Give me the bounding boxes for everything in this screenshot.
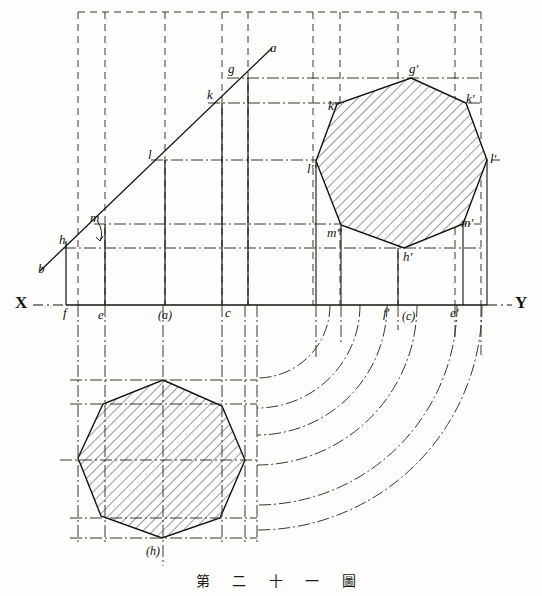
figure-container: X Y a g k l m h b f e (a) c f' (c) e' g'… (0, 0, 542, 596)
point-label-k: k (207, 88, 213, 101)
point-label-m: m (90, 211, 99, 224)
baseline-label-e-prime: e' (450, 306, 459, 319)
octagon-plan-label: (h) (146, 545, 160, 557)
octagon-vertex-label-l-prime: l' (490, 152, 496, 165)
octagon-vertex-label-m-double-prime: m'' (327, 226, 342, 239)
baseline-label-f-prime: f' (383, 306, 389, 319)
baseline-label-c: c (225, 306, 231, 319)
point-label-h: h (59, 233, 66, 246)
octagon-vertex-label-k-double-prime: k'' (328, 99, 339, 112)
octagon-vertex-label-g-prime: g' (409, 62, 418, 75)
ordinate-lines (66, 78, 248, 305)
octagon-vertex-label-l-double-prime: l'' (307, 162, 316, 175)
technical-drawing-canvas (0, 0, 542, 596)
baseline-label-f: f (63, 306, 67, 319)
point-label-l: l (148, 148, 152, 161)
octagon-vertex-label-h-prime: h' (403, 250, 412, 263)
point-label-g: g (228, 62, 235, 75)
axis-label-x: X (15, 294, 28, 311)
octagon-vertex-label-k-prime: k' (466, 92, 475, 105)
baseline-label-a-plan: (a) (158, 309, 172, 321)
point-label-a: a (270, 41, 277, 54)
point-label-b: b (38, 262, 45, 275)
octagon-vertex-label-m-prime: m' (461, 216, 473, 229)
axis-label-y: Y (515, 294, 528, 311)
baseline-label-e: e (98, 308, 104, 321)
baseline-label-c-plan: (c) (402, 310, 415, 322)
figure-caption: 第 二 十 一 圖 (196, 570, 365, 590)
